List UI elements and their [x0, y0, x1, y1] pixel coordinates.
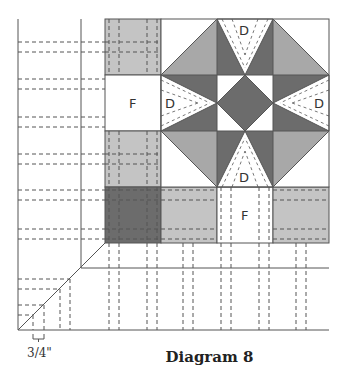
- f-strip-bottom: F: [217, 187, 273, 243]
- d-label-top: D: [239, 23, 249, 38]
- d-label-left: D: [165, 96, 175, 111]
- quilt-diagram: .solid { stroke:#555; stroke-width:1; fi…: [0, 0, 349, 381]
- f-label-bottom: F: [241, 208, 248, 223]
- corner-square-dark: [105, 187, 161, 243]
- diagram-caption: Diagram 8: [0, 348, 349, 366]
- f-label-left: F: [129, 96, 136, 111]
- f-strip-left: F: [105, 75, 161, 131]
- d-label-right: D: [314, 96, 324, 111]
- measurement-bracket: [33, 334, 44, 342]
- sashing-mid-left: [105, 131, 161, 187]
- star-block: D D D D: [161, 19, 329, 187]
- sashing-bottom-right: [273, 187, 329, 243]
- d-label-bottom: D: [239, 170, 249, 185]
- sashing-bottom-left: [161, 187, 217, 243]
- sashing-top-left: [105, 19, 161, 75]
